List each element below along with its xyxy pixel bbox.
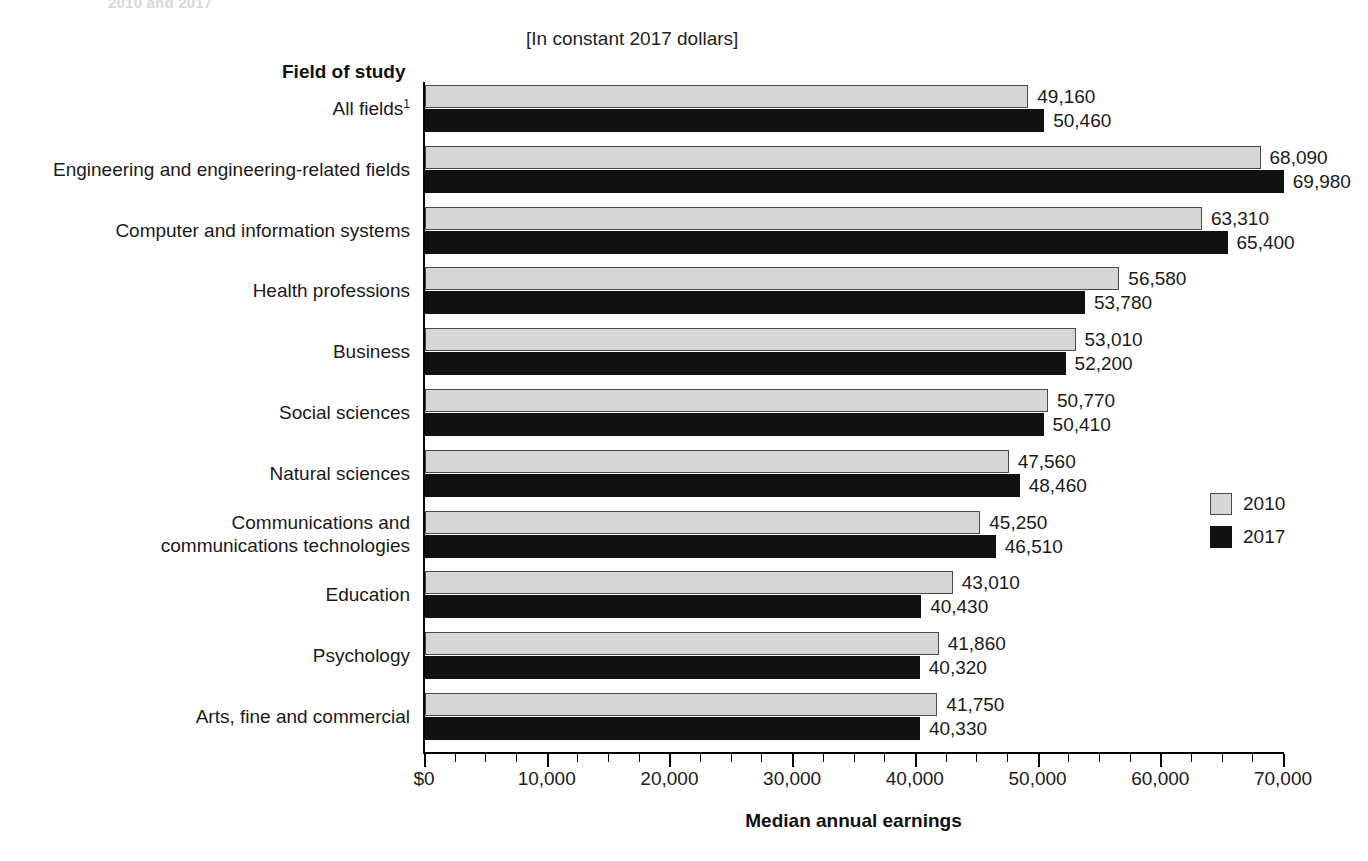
x-axis-minor-tick	[455, 754, 456, 762]
bar-value-2010: 41,750	[946, 694, 1004, 716]
x-axis-tick-label: 20,000	[640, 768, 698, 790]
x-axis-minor-tick	[1099, 754, 1100, 762]
category-label-line: Engineering and engineering-related fiel…	[53, 158, 410, 181]
bar-value-2010: 56,580	[1128, 268, 1186, 290]
x-axis-tick-label: 40,000	[886, 768, 944, 790]
legend: 20102017	[1210, 487, 1285, 553]
category-label-line: Social sciences	[279, 401, 410, 424]
x-axis-tick-label: 70,000	[1254, 768, 1312, 790]
x-axis-major-tick	[915, 754, 917, 767]
category-label-line: Psychology	[313, 644, 410, 667]
category-label: Natural sciences	[270, 462, 410, 485]
bar-value-2010: 43,010	[962, 572, 1020, 594]
bar-2010	[425, 389, 1048, 412]
x-axis-tick-label: 50,000	[1009, 768, 1067, 790]
category-label-line: All fields1	[333, 97, 410, 120]
x-axis-title: Median annual earnings	[423, 810, 1284, 832]
bar-value-2017: 69,980	[1293, 171, 1351, 193]
bar-value-2010: 49,160	[1037, 86, 1095, 108]
bar-2017	[425, 474, 1020, 497]
bar-value-2017: 50,410	[1053, 414, 1111, 436]
bar-2017	[425, 535, 996, 558]
x-axis-major-tick	[792, 754, 794, 767]
category-label: All fields1	[333, 97, 410, 120]
legend-swatch-2017	[1210, 526, 1232, 548]
bar-value-2017: 46,510	[1005, 536, 1063, 558]
x-axis-minor-tick	[731, 754, 732, 762]
bar-2017	[425, 717, 920, 740]
x-axis-minor-tick	[516, 754, 517, 762]
x-axis-tick-label: 60,000	[1131, 768, 1189, 790]
x-axis-minor-tick	[577, 754, 578, 762]
bar-2017	[425, 352, 1066, 375]
legend-item: 2017	[1210, 520, 1285, 553]
x-axis-minor-tick	[1252, 754, 1253, 762]
bar-value-2010: 68,090	[1270, 147, 1328, 169]
bar-value-2017: 50,460	[1053, 110, 1111, 132]
legend-swatch-2010	[1210, 493, 1232, 515]
category-label-line: Natural sciences	[270, 462, 410, 485]
bar-value-2017: 65,400	[1237, 232, 1295, 254]
x-axis-minor-tick	[1191, 754, 1192, 762]
x-axis-minor-tick	[1130, 754, 1131, 762]
field-of-study-header: Field of study	[282, 61, 406, 83]
x-axis-tick-label: $0	[413, 768, 434, 790]
x-axis-tick-label: 10,000	[518, 768, 576, 790]
x-axis-minor-tick	[1068, 754, 1069, 762]
legend-label-2017: 2017	[1243, 526, 1285, 548]
bar-2010	[425, 693, 937, 716]
x-axis-minor-tick	[976, 754, 977, 762]
x-axis-minor-tick	[823, 754, 824, 762]
category-label-line: Arts, fine and commercial	[196, 705, 410, 728]
bar-value-2010: 45,250	[989, 512, 1047, 534]
bar-value-2017: 40,430	[930, 596, 988, 618]
bar-2010	[425, 571, 953, 594]
x-axis-minor-tick	[761, 754, 762, 762]
category-label: Communications andcommunications technol…	[161, 511, 410, 557]
category-label: Engineering and engineering-related fiel…	[53, 158, 410, 181]
x-axis-minor-tick	[485, 754, 486, 762]
bar-value-2010: 41,860	[948, 633, 1006, 655]
category-label-line: Communications and	[161, 511, 410, 534]
bar-2017	[425, 291, 1085, 314]
bar-value-2017: 53,780	[1094, 292, 1152, 314]
bar-2010	[425, 146, 1261, 169]
bar-2017	[425, 413, 1044, 436]
x-axis-minor-tick	[854, 754, 855, 762]
x-axis-minor-tick	[1222, 754, 1223, 762]
x-axis-major-tick	[669, 754, 671, 767]
bar-value-2010: 50,770	[1057, 390, 1115, 412]
x-axis-minor-tick	[700, 754, 701, 762]
bar-2010	[425, 632, 939, 655]
category-label-line: Business	[333, 340, 410, 363]
x-axis-minor-tick	[946, 754, 947, 762]
x-axis-minor-tick	[608, 754, 609, 762]
bar-value-2017: 52,200	[1075, 353, 1133, 375]
bar-value-2017: 48,460	[1029, 475, 1087, 497]
legend-label-2010: 2010	[1243, 493, 1285, 515]
x-axis-major-tick	[1038, 754, 1040, 767]
bar-2010	[425, 328, 1076, 351]
x-axis-major-tick	[1160, 754, 1162, 767]
category-label: Psychology	[313, 644, 410, 667]
category-label-line: Education	[325, 583, 410, 606]
category-label: Education	[325, 583, 410, 606]
category-label: Arts, fine and commercial	[196, 705, 410, 728]
x-axis-minor-tick	[1007, 754, 1008, 762]
bar-2010	[425, 207, 1202, 230]
category-label-line: Computer and information systems	[115, 219, 410, 242]
x-axis-major-tick	[424, 754, 426, 767]
bar-2010	[425, 450, 1009, 473]
x-axis-major-tick	[547, 754, 549, 767]
bar-2010	[425, 511, 980, 534]
bar-value-2010: 47,560	[1018, 451, 1076, 473]
category-label: Computer and information systems	[115, 219, 410, 242]
bar-value-2010: 53,010	[1085, 329, 1143, 351]
x-axis-major-tick	[1283, 754, 1285, 767]
category-label: Health professions	[253, 279, 410, 302]
category-label: Social sciences	[279, 401, 410, 424]
bar-2017	[425, 109, 1044, 132]
category-label-line: communications technologies	[161, 534, 410, 557]
bar-2017	[425, 170, 1284, 193]
cropped-header-remnant: 2010 and 2017	[108, 0, 212, 11]
